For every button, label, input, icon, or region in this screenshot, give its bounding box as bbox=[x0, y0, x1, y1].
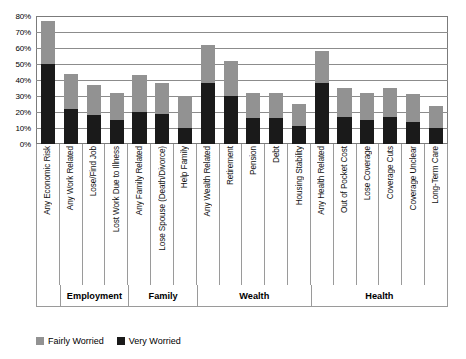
bar-slot[interactable] bbox=[356, 16, 379, 144]
bar-segment-very-worried[interactable] bbox=[383, 117, 397, 144]
x-axis-category-cell: Pension bbox=[242, 144, 265, 285]
y-axis-tick-label: 50% bbox=[16, 60, 31, 69]
x-axis-category-cell: Any Family Related bbox=[128, 144, 151, 285]
bar-segment-fairly-worried[interactable] bbox=[64, 74, 78, 109]
stacked-bar[interactable] bbox=[337, 88, 351, 144]
bar-segment-fairly-worried[interactable] bbox=[246, 93, 260, 119]
bar-segment-very-worried[interactable] bbox=[155, 114, 169, 144]
bar-slot[interactable] bbox=[151, 16, 174, 144]
y-axis-tick-label: 60% bbox=[16, 44, 31, 53]
x-axis-group-label-employment: Employment bbox=[61, 285, 130, 306]
bar-segment-very-worried[interactable] bbox=[246, 118, 260, 144]
bar-segment-very-worried[interactable] bbox=[429, 128, 443, 144]
stacked-bar[interactable] bbox=[360, 93, 374, 144]
x-axis-category-label: Long-Term Care bbox=[431, 146, 440, 204]
stacked-bar[interactable] bbox=[224, 61, 238, 144]
bar-segment-fairly-worried[interactable] bbox=[155, 83, 169, 113]
stacked-bar[interactable] bbox=[269, 93, 283, 144]
bar-slot[interactable] bbox=[310, 16, 333, 144]
x-axis-category-cell: Help Family bbox=[174, 144, 197, 285]
legend-swatch-icon bbox=[36, 337, 44, 345]
bar-segment-fairly-worried[interactable] bbox=[429, 106, 443, 128]
bar-segment-fairly-worried[interactable] bbox=[132, 75, 146, 112]
x-axis-category-cell: Coverage Unclear bbox=[402, 144, 425, 285]
legend-item[interactable]: Fairly Worried bbox=[36, 336, 104, 346]
stacked-bar[interactable] bbox=[132, 75, 146, 144]
bar-segment-fairly-worried[interactable] bbox=[41, 21, 55, 64]
bar-segment-very-worried[interactable] bbox=[315, 83, 329, 144]
x-axis-category-label: Coverage Cuts bbox=[386, 146, 395, 199]
bar-segment-very-worried[interactable] bbox=[406, 122, 420, 144]
stacked-bar[interactable] bbox=[406, 94, 420, 144]
stacked-bar[interactable] bbox=[155, 83, 169, 144]
bar-slot[interactable] bbox=[128, 16, 151, 144]
legend-item[interactable]: Very Worried bbox=[117, 336, 181, 346]
x-axis-category-cell: Lose/Find Job bbox=[83, 144, 106, 285]
x-axis-category-cell: Coverage Cuts bbox=[379, 144, 402, 285]
bar-slot[interactable] bbox=[37, 16, 60, 144]
y-axis-tick-label: 80% bbox=[16, 12, 31, 21]
bar-slot[interactable] bbox=[265, 16, 288, 144]
bar-slot[interactable] bbox=[242, 16, 265, 144]
bar-segment-fairly-worried[interactable] bbox=[110, 93, 124, 120]
stacked-bar[interactable] bbox=[178, 96, 192, 144]
legend-label: Very Worried bbox=[129, 336, 181, 346]
bar-segment-fairly-worried[interactable] bbox=[406, 94, 420, 121]
stacked-bar[interactable] bbox=[429, 106, 443, 144]
bar-segment-fairly-worried[interactable] bbox=[224, 61, 238, 96]
bar-slot[interactable] bbox=[105, 16, 128, 144]
bar-slot[interactable] bbox=[219, 16, 242, 144]
legend-label: Fairly Worried bbox=[48, 336, 104, 346]
bar-segment-fairly-worried[interactable] bbox=[337, 88, 351, 117]
bar-segment-very-worried[interactable] bbox=[41, 64, 55, 144]
bar-segment-fairly-worried[interactable] bbox=[315, 51, 329, 83]
stacked-bar[interactable] bbox=[383, 88, 397, 144]
bar-segment-very-worried[interactable] bbox=[178, 128, 192, 144]
x-axis-category-label: Any Work Related bbox=[66, 146, 75, 210]
x-axis-category-cell: Out of Pocket Cost bbox=[334, 144, 357, 285]
bar-segment-very-worried[interactable] bbox=[110, 120, 124, 144]
bar-slot[interactable] bbox=[424, 16, 447, 144]
y-axis: 80%70%60%50%40%30%20%10%0% bbox=[0, 16, 34, 144]
bar-segment-very-worried[interactable] bbox=[269, 118, 283, 144]
bar-slot[interactable] bbox=[379, 16, 402, 144]
bar-slot[interactable] bbox=[288, 16, 311, 144]
x-axis-category-cell: Any Economic Risk bbox=[37, 144, 60, 285]
bar-segment-very-worried[interactable] bbox=[360, 120, 374, 144]
bar-segment-very-worried[interactable] bbox=[337, 117, 351, 144]
bar-segment-very-worried[interactable] bbox=[224, 96, 238, 144]
bar-segment-fairly-worried[interactable] bbox=[269, 93, 283, 119]
x-axis-group-labels: EmploymentFamilyWealthHealth bbox=[36, 285, 448, 307]
bar-segment-fairly-worried[interactable] bbox=[87, 85, 101, 115]
bar-slot[interactable] bbox=[174, 16, 197, 144]
bar-segment-very-worried[interactable] bbox=[87, 115, 101, 144]
x-axis-category-label: Lose Spouse (Death/Divorce) bbox=[158, 146, 167, 251]
stacked-bar[interactable] bbox=[246, 93, 260, 144]
bar-slot[interactable] bbox=[402, 16, 425, 144]
bar-slot[interactable] bbox=[333, 16, 356, 144]
stacked-bar[interactable] bbox=[87, 85, 101, 144]
legend-swatch-icon bbox=[117, 337, 125, 345]
bar-segment-fairly-worried[interactable] bbox=[201, 45, 215, 83]
x-axis-category-cell: Any Health Related bbox=[311, 144, 334, 285]
stacked-bar[interactable] bbox=[110, 93, 124, 144]
stacked-bar[interactable] bbox=[41, 21, 55, 144]
y-axis-tick-label: 70% bbox=[16, 28, 31, 37]
bar-slot[interactable] bbox=[196, 16, 219, 144]
stacked-bar[interactable] bbox=[292, 104, 306, 144]
bar-segment-fairly-worried[interactable] bbox=[292, 104, 306, 126]
bar-slot[interactable] bbox=[60, 16, 83, 144]
bar-segment-fairly-worried[interactable] bbox=[178, 96, 192, 128]
bar-segment-very-worried[interactable] bbox=[292, 126, 306, 144]
bar-slot[interactable] bbox=[83, 16, 106, 144]
bar-segment-fairly-worried[interactable] bbox=[383, 88, 397, 117]
x-axis-group-label-wealth: Wealth bbox=[198, 285, 312, 306]
stacked-bar[interactable] bbox=[64, 74, 78, 144]
bar-segment-fairly-worried[interactable] bbox=[360, 93, 374, 120]
bar-series-container bbox=[36, 16, 448, 144]
bar-segment-very-worried[interactable] bbox=[201, 83, 215, 144]
stacked-bar[interactable] bbox=[201, 45, 215, 144]
stacked-bar[interactable] bbox=[315, 51, 329, 144]
bar-segment-very-worried[interactable] bbox=[64, 109, 78, 144]
bar-segment-very-worried[interactable] bbox=[132, 112, 146, 144]
